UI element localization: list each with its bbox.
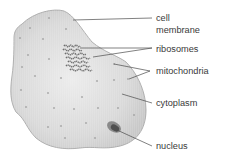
mitochondrion <box>47 126 49 128</box>
mitochondrion <box>133 114 135 116</box>
mitochondrion <box>117 107 119 109</box>
mitochondrion <box>94 137 96 139</box>
mitochondrion <box>97 107 99 109</box>
label-membrane: membrane <box>156 25 200 35</box>
mitochondrion <box>48 58 50 60</box>
mitochondrion <box>64 137 66 139</box>
mitochondrion <box>127 78 129 80</box>
mitochondrion <box>29 27 31 29</box>
mitochondrion <box>27 54 29 56</box>
mitochondrion <box>42 38 44 40</box>
mitochondrion <box>96 80 98 82</box>
mitochondrion <box>73 108 75 110</box>
mitochondrion <box>60 125 62 127</box>
mitochondrion <box>113 79 115 81</box>
mitochondrion <box>34 75 36 77</box>
mitochondrion <box>25 106 27 108</box>
mitochondrion <box>65 28 67 30</box>
cell-texture <box>11 10 146 149</box>
label-cell: cell <box>156 13 170 23</box>
label-ribosomes: ribosomes <box>156 44 199 54</box>
label-cytoplasm: cytoplasm <box>156 98 198 108</box>
mitochondrion <box>81 96 83 98</box>
mitochondrion <box>19 37 21 39</box>
mitochondrion <box>21 66 23 68</box>
cell-diagram: cell membrane ribosomes mitochondria cyt… <box>0 0 226 159</box>
cell <box>11 10 146 149</box>
mitochondrion <box>48 17 50 19</box>
mitochondrion <box>60 77 62 79</box>
label-mitochondria: mitochondria <box>156 66 209 76</box>
label-nucleus: nucleus <box>156 141 188 151</box>
mitochondrion <box>47 92 49 94</box>
mitochondrion <box>53 107 55 109</box>
mitochondrion <box>85 122 87 124</box>
mitochondrion <box>20 89 22 91</box>
leader-cell-membrane <box>73 18 152 20</box>
